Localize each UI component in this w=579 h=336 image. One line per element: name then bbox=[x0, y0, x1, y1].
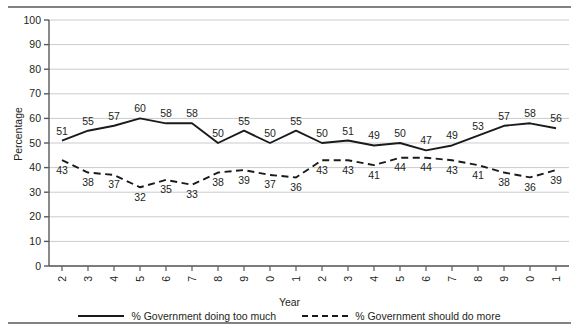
data-label: 36 bbox=[290, 181, 302, 193]
data-label: 57 bbox=[108, 110, 120, 122]
y-axis-tick-label: 80 bbox=[29, 63, 41, 75]
chart-svg: 0102030405060708090100199219931994199519… bbox=[0, 10, 579, 282]
data-label: 44 bbox=[394, 161, 406, 173]
data-label: 38 bbox=[82, 176, 94, 188]
plot-area: Percentage 01020304050607080901001992199… bbox=[0, 10, 579, 282]
data-label: 56 bbox=[550, 112, 562, 124]
data-label: 38 bbox=[212, 176, 224, 188]
data-label: 50 bbox=[264, 127, 276, 139]
data-label: 43 bbox=[342, 164, 354, 176]
y-axis-tick-label: 100 bbox=[23, 14, 41, 26]
data-label: 49 bbox=[446, 129, 458, 141]
x-axis-tick-label: 2011 bbox=[550, 276, 562, 282]
data-label: 36 bbox=[524, 181, 536, 193]
y-axis-tick-label: 10 bbox=[29, 235, 41, 247]
bottom-divider-rule bbox=[8, 322, 571, 324]
data-label: 55 bbox=[290, 115, 302, 127]
data-label: 38 bbox=[498, 176, 510, 188]
data-label: 44 bbox=[420, 161, 432, 173]
data-label: 32 bbox=[134, 191, 146, 203]
x-axis-tick-label: 2005 bbox=[394, 276, 406, 282]
x-axis-tick-label: 2008 bbox=[472, 276, 484, 282]
data-label: 58 bbox=[524, 107, 536, 119]
y-axis-tick-label: 90 bbox=[29, 38, 41, 50]
x-axis-tick-label: 1993 bbox=[82, 276, 94, 282]
data-label: 60 bbox=[134, 102, 146, 114]
y-axis-tick-label: 40 bbox=[29, 161, 41, 173]
data-label: 50 bbox=[212, 127, 224, 139]
data-label: 39 bbox=[550, 174, 562, 186]
x-axis-tick-label: 1994 bbox=[108, 276, 120, 282]
data-label: 50 bbox=[394, 127, 406, 139]
data-label: 41 bbox=[472, 169, 484, 181]
dashed-line-swatch-icon bbox=[302, 315, 348, 317]
x-axis-tick-label: 2007 bbox=[446, 276, 458, 282]
data-label: 58 bbox=[186, 107, 198, 119]
y-axis-tick-label: 70 bbox=[29, 87, 41, 99]
line-chart-figure: Percentage 01020304050607080901001992199… bbox=[0, 10, 579, 322]
y-axis-tick-label: 30 bbox=[29, 186, 41, 198]
data-label: 50 bbox=[316, 127, 328, 139]
x-axis-tick-label: 1997 bbox=[186, 276, 198, 282]
x-axis-tick-label: 2001 bbox=[290, 276, 302, 282]
x-axis-tick-label: 1998 bbox=[212, 276, 224, 282]
x-axis-tick-label: 2002 bbox=[316, 276, 328, 282]
data-label: 55 bbox=[238, 115, 250, 127]
data-label: 53 bbox=[472, 120, 484, 132]
y-axis-tick-label: 20 bbox=[29, 210, 41, 222]
data-label: 35 bbox=[160, 183, 172, 195]
chart-legend: % Government doing too much % Government… bbox=[0, 310, 579, 322]
y-axis-tick-label: 60 bbox=[29, 112, 41, 124]
legend-item-series1[interactable]: % Government doing too much bbox=[78, 310, 276, 322]
y-axis-tick-label: 50 bbox=[29, 137, 41, 149]
legend-label-series1: % Government doing too much bbox=[131, 310, 276, 322]
legend-item-series2[interactable]: % Government should do more bbox=[302, 310, 500, 322]
data-label: 55 bbox=[82, 115, 94, 127]
data-label: 33 bbox=[186, 188, 198, 200]
data-label: 37 bbox=[108, 178, 120, 190]
data-label: 51 bbox=[342, 125, 354, 137]
data-label: 43 bbox=[56, 164, 68, 176]
data-label: 43 bbox=[316, 164, 328, 176]
x-axis-tick-label: 1996 bbox=[160, 276, 172, 282]
data-label: 58 bbox=[160, 107, 172, 119]
data-label: 37 bbox=[264, 178, 276, 190]
data-label: 47 bbox=[420, 134, 432, 146]
data-label: 39 bbox=[238, 174, 250, 186]
x-axis-title: Year bbox=[0, 296, 579, 308]
x-axis-tick-label: 1995 bbox=[134, 276, 146, 282]
data-label: 41 bbox=[368, 169, 380, 181]
solid-line-swatch-icon bbox=[78, 315, 124, 317]
data-label: 51 bbox=[56, 125, 68, 137]
x-axis-tick-label: 2003 bbox=[342, 276, 354, 282]
x-axis-tick-label: 1992 bbox=[56, 276, 68, 282]
x-axis-tick-label: 2006 bbox=[420, 276, 432, 282]
x-axis-tick-label: 2000 bbox=[264, 276, 276, 282]
data-label: 43 bbox=[446, 164, 458, 176]
data-label: 49 bbox=[368, 129, 380, 141]
x-axis-tick-label: 2010 bbox=[524, 276, 536, 282]
y-axis-tick-label: 0 bbox=[35, 260, 41, 272]
legend-label-series2: % Government should do more bbox=[355, 310, 500, 322]
data-label: 57 bbox=[498, 110, 510, 122]
x-axis-tick-label: 1999 bbox=[238, 276, 250, 282]
x-axis-tick-label: 2004 bbox=[368, 276, 380, 282]
top-divider-rule bbox=[8, 6, 571, 8]
x-axis-tick-label: 2009 bbox=[498, 276, 510, 282]
